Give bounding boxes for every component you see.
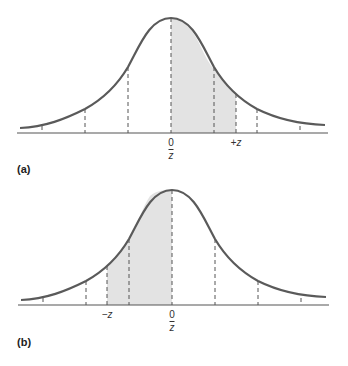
panel-a-mean-symbol: z [169, 150, 174, 161]
panel-a-shaded-area [171, 18, 236, 133]
panel-a-chart [17, 18, 328, 133]
panel-b-mean-label: 0 [169, 309, 175, 320]
panel-b-shaded-area [107, 190, 172, 305]
panel-a-label: (a) [17, 163, 30, 175]
panel-b-mean-symbol: z [170, 322, 175, 333]
panel-b-z-label: −z [102, 309, 113, 320]
panel-b-chart [18, 190, 329, 305]
panel-b-normal-curve [21, 190, 326, 300]
panel-a-mean-label: 0 [168, 137, 174, 148]
panel-a-z-label: +z [231, 137, 242, 148]
panel-b-label: (b) [17, 336, 31, 348]
